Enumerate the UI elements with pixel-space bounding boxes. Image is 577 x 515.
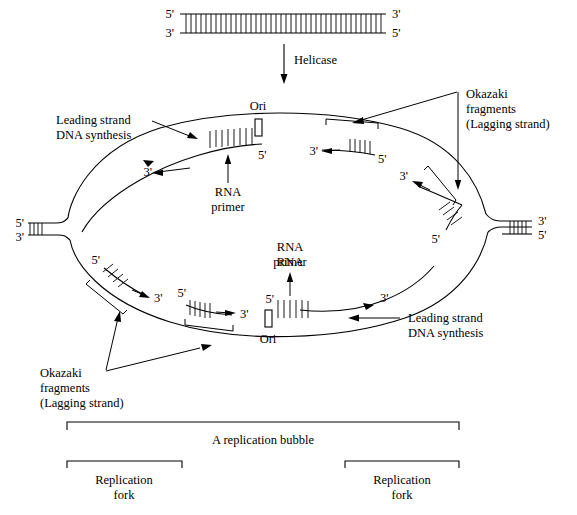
left-replication-fork-bracket: Replication fork xyxy=(67,461,182,502)
bottom-okazaki1-five-prime: 5' xyxy=(91,253,100,267)
top-leading-three-prime: 3' xyxy=(143,165,152,179)
helicase-arrowhead xyxy=(281,74,288,84)
top-leading-annotation: Leading strand DNA synthesis xyxy=(56,113,198,142)
right-replication-fork-bracket: Replication fork xyxy=(345,461,459,502)
top-okazaki-fragment-2: 3' 5' xyxy=(399,166,462,246)
top-okazaki-line3: (Lagging strand) xyxy=(466,117,550,131)
top-rna-primer-arrowhead xyxy=(225,154,231,164)
bottom-okazaki1-arrowhead xyxy=(139,291,150,298)
left-fork-label-line1: Replication xyxy=(95,473,153,487)
top-leading-label-line1: Leading strand xyxy=(56,113,131,127)
bottom-rna-primer-arrowhead xyxy=(287,272,293,282)
bottom-rna-primer-line1b: RNA xyxy=(277,240,303,254)
top-rna-primer-line1: RNA xyxy=(215,185,241,199)
left-fork-bottom-label: 3' xyxy=(15,230,24,244)
top-okazaki-line1: Okazaki xyxy=(466,87,508,101)
top-duplex-right-top-label: 3' xyxy=(392,7,401,21)
top-duplex-left-top-label: 5' xyxy=(165,7,174,21)
bottom-okazaki-annotation: Okazaki fragments (Lagging strand) xyxy=(40,311,212,410)
bottom-leading-annotation-arrowhead xyxy=(348,315,359,322)
bottom-okazaki1-three-prime: 3' xyxy=(154,291,163,305)
bottom-okazaki-line2: fragments xyxy=(40,381,90,395)
top-okazaki2-three-prime: 3' xyxy=(399,169,408,183)
helicase-arrow-group: Helicase xyxy=(281,44,338,84)
helicase-label: Helicase xyxy=(294,53,337,67)
top-rna-primer-ladder xyxy=(210,128,252,148)
top-okazaki1-arrowhead xyxy=(321,148,332,154)
top-rna-primer-line2: primer xyxy=(211,200,245,214)
bottom-ori-label: Ori xyxy=(260,332,277,346)
bottom-okazaki2-five-prime: 5' xyxy=(177,286,186,300)
top-duplex-right-bottom-label: 5' xyxy=(392,26,401,40)
replication-bubble-bracket: A replication bubble xyxy=(67,422,459,447)
bottom-leading-label-line2: DNA synthesis xyxy=(408,326,483,340)
left-fork-junction: 5' 3' xyxy=(15,216,70,244)
right-fork-label-line1: Replication xyxy=(373,473,431,487)
bottom-okazaki-line3: (Lagging strand) xyxy=(40,396,124,410)
right-fork-label-line2: fork xyxy=(392,488,414,502)
bottom-leading-new-strand: 3' xyxy=(300,266,434,315)
bottom-right-three-prime: 3' xyxy=(380,291,389,305)
replication-bubble-label: A replication bubble xyxy=(212,433,315,447)
top-okazaki1-five-prime: 5' xyxy=(378,152,387,166)
bottom-okazaki-line1: Okazaki xyxy=(40,366,82,380)
top-okazaki1-three-prime: 3' xyxy=(309,144,318,158)
top-leading-label-line2: DNA synthesis xyxy=(56,128,131,142)
bottom-okazaki-leader1-arrowhead xyxy=(114,311,121,322)
top-okazaki-annotation: Okazaki fragments (Lagging strand) xyxy=(352,87,550,190)
bottom-okazaki-leader2-arrowhead xyxy=(201,344,212,351)
top-duplex-rungs xyxy=(186,14,381,33)
top-okazaki2-five-prime: 5' xyxy=(431,232,440,246)
bottom-okazaki2-three-prime: 3' xyxy=(240,307,249,321)
top-duplex: 5' 3' 3' 5' xyxy=(165,7,400,40)
diagram-canvas: 5' 3' 3' 5' Helicase 5' 3' xyxy=(0,0,577,515)
left-fork-label-line2: fork xyxy=(114,488,136,502)
right-fork-bottom-label: 5' xyxy=(538,228,547,242)
dna-replication-diagram: 5' 3' 3' 5' Helicase 5' 3' xyxy=(0,0,577,515)
top-duplex-left-bottom-label: 3' xyxy=(165,26,174,40)
top-okazaki-leader2-arrowhead xyxy=(455,180,461,190)
right-fork-top-label: 3' xyxy=(538,214,547,228)
left-fork-rungs xyxy=(30,223,42,235)
bottom-leading-annotation: Leading strand DNA synthesis xyxy=(348,311,483,340)
top-ori-five-prime: 5' xyxy=(258,148,267,162)
bottom-ori-marker: Ori xyxy=(260,310,277,346)
top-rna-primer-annotation: RNA primer xyxy=(211,154,245,214)
bottom-rna-primer-line2: primer xyxy=(273,255,307,269)
bottom-rna-primer-ladder xyxy=(278,300,308,318)
top-okazaki-line2: fragments xyxy=(466,102,516,116)
left-fork-top-label: 5' xyxy=(15,216,24,230)
bottom-ori-five-prime: 5' xyxy=(265,292,274,306)
bottom-leading-label-line1: Leading strand xyxy=(408,311,483,325)
bottom-okazaki-fragment-2: 5' 3' xyxy=(177,286,248,331)
top-ori-label: Ori xyxy=(250,99,267,113)
right-fork-junction: 3' 5' xyxy=(486,214,547,242)
top-okazaki-fragment-1: 3' 5' xyxy=(309,119,386,166)
top-leading-annotation-arrowhead xyxy=(187,132,198,139)
